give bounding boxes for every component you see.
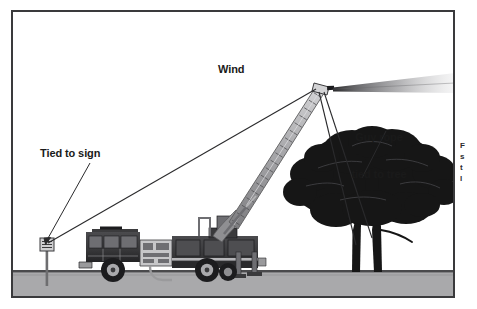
- nozzle-spray: [333, 73, 455, 93]
- label-guy-rope-tied-to-tree: Guy rope tied to tree: [351, 106, 406, 205]
- truck-cab-windows: [89, 236, 137, 248]
- sign-post: [46, 248, 49, 286]
- spray-plume: [333, 73, 455, 93]
- clipped-margin-text: F s t l: [460, 140, 477, 184]
- leader-line-tied-to-sign: [47, 163, 90, 240]
- clipped-margin-text-line-3: t: [460, 162, 477, 173]
- label-wind: Wind: [218, 63, 244, 75]
- illustration-scene: Wind Tied to sign Guy rope tied to tree …: [0, 0, 477, 309]
- label-tied-to-sign: Tied to sign: [40, 147, 100, 159]
- clipped-margin-text-line-4: l: [460, 173, 477, 184]
- label-guy-rope-line-2: tied to tree: [351, 168, 406, 180]
- truck-body-stripe: [172, 258, 258, 261]
- clipped-margin-text-line-1: F: [460, 140, 477, 151]
- truck-compartments: [176, 240, 254, 256]
- clipped-margin-text-line-2: s: [460, 151, 477, 162]
- truck-pedestal-rail: [199, 218, 210, 236]
- truck-front-bumper: [79, 262, 92, 268]
- truck-light-bar: [100, 227, 122, 230]
- truck-rear-step: [258, 258, 266, 266]
- label-guy-rope-line-1: Guy rope: [351, 131, 406, 143]
